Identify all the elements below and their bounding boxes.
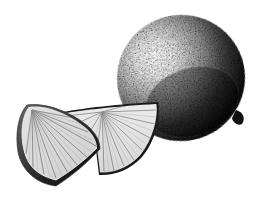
lime-illustration — [0, 0, 259, 203]
illustration: Lime with two wedges — [0, 0, 259, 203]
